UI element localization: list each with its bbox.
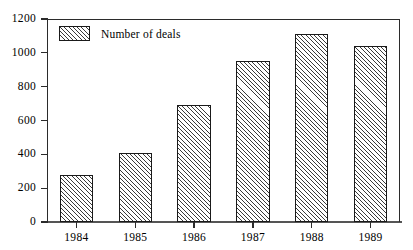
x-axis-tick — [193, 222, 194, 228]
bar-1986 — [177, 105, 210, 222]
bar-1984 — [60, 175, 93, 222]
y-axis-label: 400 — [0, 148, 36, 160]
x-axis-tick — [370, 222, 371, 228]
plot-frame-right — [399, 19, 400, 222]
x-axis-label-1984: 1984 — [46, 231, 106, 243]
bar-1985 — [119, 153, 152, 222]
legend-swatch-number-of-deals — [59, 26, 90, 41]
y-axis-label: 600 — [0, 115, 36, 127]
x-axis-tick — [76, 222, 77, 228]
y-axis-tick — [41, 18, 48, 19]
y-axis-tick — [41, 86, 48, 87]
x-axis-tick — [135, 222, 136, 228]
x-axis-tick — [252, 222, 253, 228]
x-axis-label-1988: 1988 — [282, 231, 342, 243]
bar-1988 — [295, 34, 328, 222]
y-axis-label: 1000 — [0, 47, 36, 59]
plot-area — [47, 19, 400, 222]
y-axis-tick — [41, 188, 48, 189]
x-axis-line — [47, 221, 402, 223]
legend-label-number-of-deals: Number of deals — [101, 28, 181, 40]
x-axis-label-1986: 1986 — [164, 231, 224, 243]
y-axis-label: 0 — [0, 216, 36, 228]
chart-legend: Number of deals — [59, 26, 181, 41]
bar-1989 — [354, 46, 387, 222]
y-axis-tick — [41, 221, 48, 222]
bar-chart: 020040060080010001200 198419851986198719… — [0, 0, 413, 250]
y-axis-tick — [41, 154, 48, 155]
y-axis-label: 800 — [0, 81, 36, 93]
x-axis-label-1985: 1985 — [105, 231, 165, 243]
x-axis-label-1989: 1989 — [341, 231, 401, 243]
x-axis-label-1987: 1987 — [223, 231, 283, 243]
y-axis-label: 200 — [0, 182, 36, 194]
y-axis-tick — [41, 120, 48, 121]
x-axis-tick — [311, 222, 312, 228]
y-axis-label: 1200 — [0, 13, 36, 25]
bar-1987 — [236, 61, 269, 222]
y-axis-tick — [41, 52, 48, 53]
